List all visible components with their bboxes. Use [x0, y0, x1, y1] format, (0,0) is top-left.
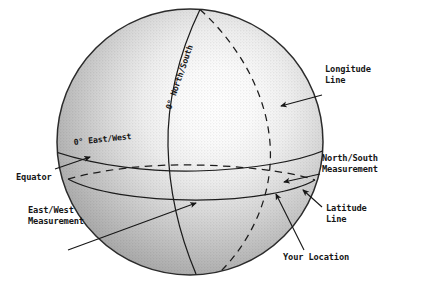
callout-your-location-row1: Your Location — [283, 252, 349, 263]
callout-north-south-measurement: North/South Measurement — [322, 153, 378, 176]
callout-north-south-measurement-row2: Measurement — [322, 164, 378, 175]
globe-diagram: 0° North/South 0° East/West Longitude Li… — [0, 0, 429, 284]
callout-north-south-measurement-row1: North/South — [322, 153, 378, 164]
callout-longitude-line-row2: Line — [325, 75, 371, 86]
callout-east-west-measurement-row1: East/West — [28, 205, 84, 216]
callout-east-west-measurement: East/West Measurement — [28, 205, 84, 228]
callout-longitude-line: Longitude Line — [325, 64, 371, 87]
globe-illustration: 0° North/South 0° East/West — [0, 0, 429, 284]
callout-equator-row1: Equator — [16, 172, 52, 183]
callout-east-west-measurement-row2: Measurement — [28, 216, 84, 227]
callout-longitude-line-row1: Longitude — [325, 64, 371, 75]
callout-equator: Equator — [16, 172, 52, 183]
callout-latitude-line: Latitude Line — [326, 203, 367, 226]
callout-your-location: Your Location — [283, 252, 349, 263]
callout-latitude-line-row1: Latitude — [326, 203, 367, 214]
callout-latitude-line-row2: Line — [326, 214, 367, 225]
